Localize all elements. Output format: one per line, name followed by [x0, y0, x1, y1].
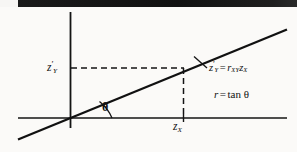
regression-equation-lhs-subscript: Y [214, 66, 218, 73]
regression-line-figure: z'Y zX θ z'Y=rXYzX r=tan θ [0, 0, 297, 152]
regression-equation-operator: = [220, 62, 226, 73]
y-axis-value-label: z'Y [47, 60, 57, 75]
tangent-equation-argument: θ [244, 88, 249, 100]
tangent-equation-operator: = [220, 88, 226, 100]
tangent-equation-label: r=tan θ [214, 89, 249, 100]
plot-canvas [0, 0, 297, 152]
x-axis-value-label: zX [173, 121, 182, 134]
regression-equation-label: z'Y=rXYzX [209, 61, 248, 74]
tangent-equation-function: tan [228, 88, 241, 100]
regression-line [18, 30, 287, 140]
angle-theta-label: θ [102, 101, 108, 113]
tangent-equation-lhs: r [214, 88, 218, 100]
y-axis-value-subscript: Y [53, 67, 57, 75]
regression-equation-rhs-subscript: X [243, 66, 247, 73]
x-axis-value-subscript: X [177, 126, 182, 134]
